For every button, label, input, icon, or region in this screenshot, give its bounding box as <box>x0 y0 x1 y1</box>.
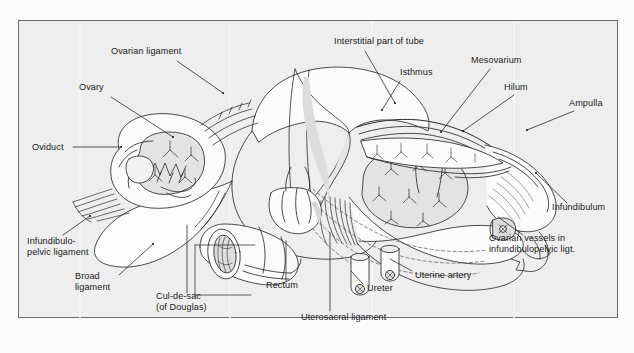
leader-hilum <box>463 95 514 131</box>
label-rectum: Rectum <box>266 280 298 291</box>
label-interstitial-part-of-tube: Interstitial part of tube <box>334 36 424 47</box>
leader-mesovarium <box>441 69 490 132</box>
label-uterosacral-ligament: Uterosacral ligament <box>301 312 386 323</box>
label-isthmus: Isthmus <box>400 67 433 78</box>
label-ovarian-ligament: Ovarian ligament <box>111 46 181 57</box>
label-cul-de-sac: Cul-de-sac (of Douglas) <box>156 291 207 312</box>
label-ovary: Ovary <box>79 82 104 93</box>
label-ureter: Ureter <box>367 283 393 294</box>
label-oviduct: Oviduct <box>32 142 64 153</box>
label-infundibulopelvic-ligament: Infundibulo- pelvic ligament <box>27 236 89 257</box>
label-mesovarium: Mesovarium <box>471 55 522 66</box>
label-ampulla: Ampulla <box>569 98 603 109</box>
label-ovarian-vessels: Ovarian vessels in infundibulopelvic lig… <box>489 233 575 254</box>
figure-page: Ovarian ligament Ovary Oviduct Infundibu… <box>0 0 634 353</box>
label-broad-ligament: Broad ligament <box>75 271 110 292</box>
label-uterine-artery: Uterine artery <box>415 270 472 281</box>
leader-infundibulopelvic <box>63 216 90 235</box>
figure-frame: Ovarian ligament Ovary Oviduct Infundibu… <box>18 20 618 318</box>
uterine-artery-stump <box>381 245 399 281</box>
label-hilum: Hilum <box>504 82 528 93</box>
label-infundibulum: Infundibulum <box>552 202 605 213</box>
leader-ovarian-ligament <box>177 61 223 93</box>
cervix-vagina-stump <box>269 167 321 234</box>
figure-inner: Ovarian ligament Ovary Oviduct Infundibu… <box>19 21 617 317</box>
leader-ampulla <box>527 111 574 130</box>
